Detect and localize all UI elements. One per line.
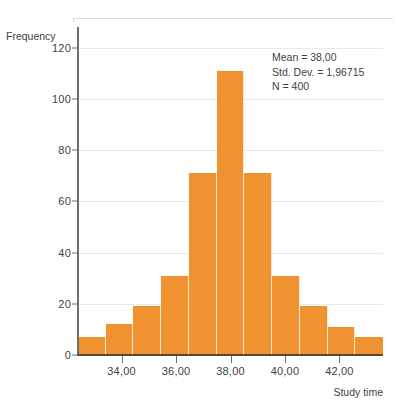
y-tick-mark [72,355,78,356]
x-axis-title: Study time [333,386,383,398]
y-tick-label: 120 [31,42,71,54]
scan-edge-left-tick [73,18,74,22]
y-tick-label: 20 [31,298,71,310]
y-axis-title: Frequency [6,30,56,42]
x-tick-mark [285,356,286,363]
x-tick-label: 36,00 [146,365,206,377]
histogram-bar [78,337,106,355]
stat-std-dev: Std. Dev. = 1,96715 [272,65,364,80]
scan-edge-top-line [73,18,393,19]
stat-n: N = 400 [272,79,364,94]
x-tick-label: 34,00 [92,365,152,377]
y-tick-label: 100 [31,93,71,105]
y-tick-label: 40 [31,247,71,259]
statistics-annotation: Mean = 38,00 Std. Dev. = 1,96715 N = 400 [272,50,364,94]
x-tick-mark [122,356,123,363]
y-tick-label: 60 [31,195,71,207]
x-tick-label: 38,00 [201,365,261,377]
histogram-chart: Frequency 020406080100120 34,0036,0038,0… [0,0,399,408]
x-tick-label: 42,00 [309,365,369,377]
x-tick-mark [339,356,340,363]
x-tick-mark [176,356,177,363]
stat-mean: Mean = 38,00 [272,50,364,65]
y-tick-label: 80 [31,144,71,156]
y-axis-line [77,27,79,356]
histogram-bar [300,306,328,355]
histogram-bar [133,306,161,355]
y-tick-label: 0 [31,349,71,361]
y-tick-mark [72,252,78,253]
gridline [78,48,383,49]
histogram-bar [244,173,272,355]
histogram-bar [217,71,245,355]
x-tick-label: 40,00 [255,365,315,377]
histogram-bar [355,337,383,355]
y-tick-mark [72,47,78,48]
histogram-bar [272,276,300,355]
y-tick-mark [72,303,78,304]
histogram-bar [328,327,356,355]
histogram-bar [106,324,134,355]
y-tick-mark [72,98,78,99]
x-tick-mark [231,356,232,363]
y-tick-mark [72,201,78,202]
histogram-bar [189,173,217,355]
y-tick-mark [72,150,78,151]
histogram-bar [161,276,189,355]
